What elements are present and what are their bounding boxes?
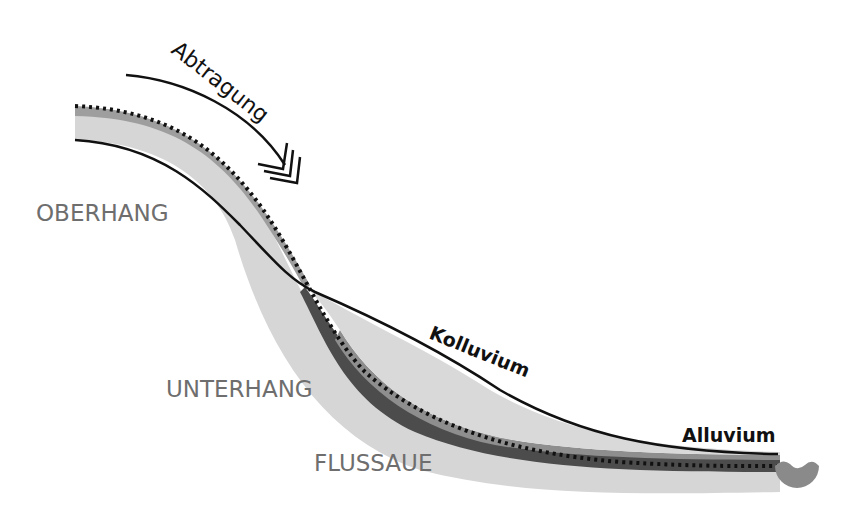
river-water-icon xyxy=(775,461,819,488)
floodplain-label: FLUSSAUE xyxy=(314,450,432,476)
lower-slope-label: UNTERHANG xyxy=(166,376,313,402)
erosion-label: Abtragung xyxy=(167,36,274,127)
alluvium-label: Alluvium xyxy=(682,424,775,446)
upper-slope-label: OBERHANG xyxy=(36,200,168,226)
slope-profile-diagram: Abtragung OBERHANG UNTERHANG FLUSSAUE Ko… xyxy=(0,0,846,522)
